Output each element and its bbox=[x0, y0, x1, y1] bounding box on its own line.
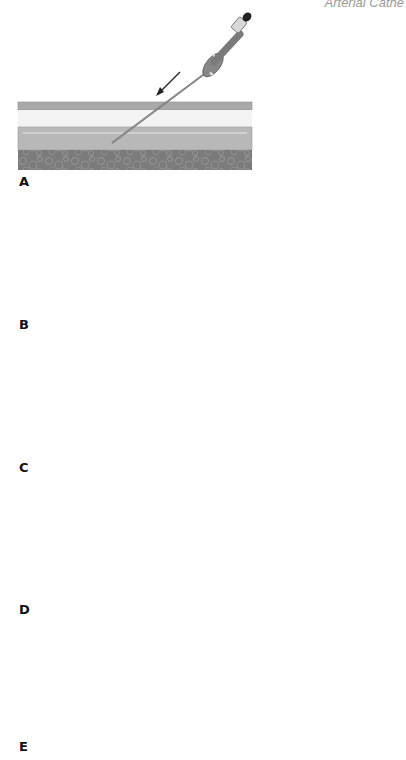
direction-arrow bbox=[160, 72, 180, 92]
panel-label-e: E bbox=[19, 739, 28, 754]
panel-label-d: D bbox=[19, 602, 30, 617]
procedure-illustration bbox=[0, 0, 406, 760]
panel-a bbox=[18, 11, 253, 170]
panel-label-b: B bbox=[19, 317, 29, 332]
panel-label-c: C bbox=[19, 460, 29, 475]
skin-layers bbox=[18, 102, 252, 170]
panel-label-a: A bbox=[19, 174, 29, 189]
